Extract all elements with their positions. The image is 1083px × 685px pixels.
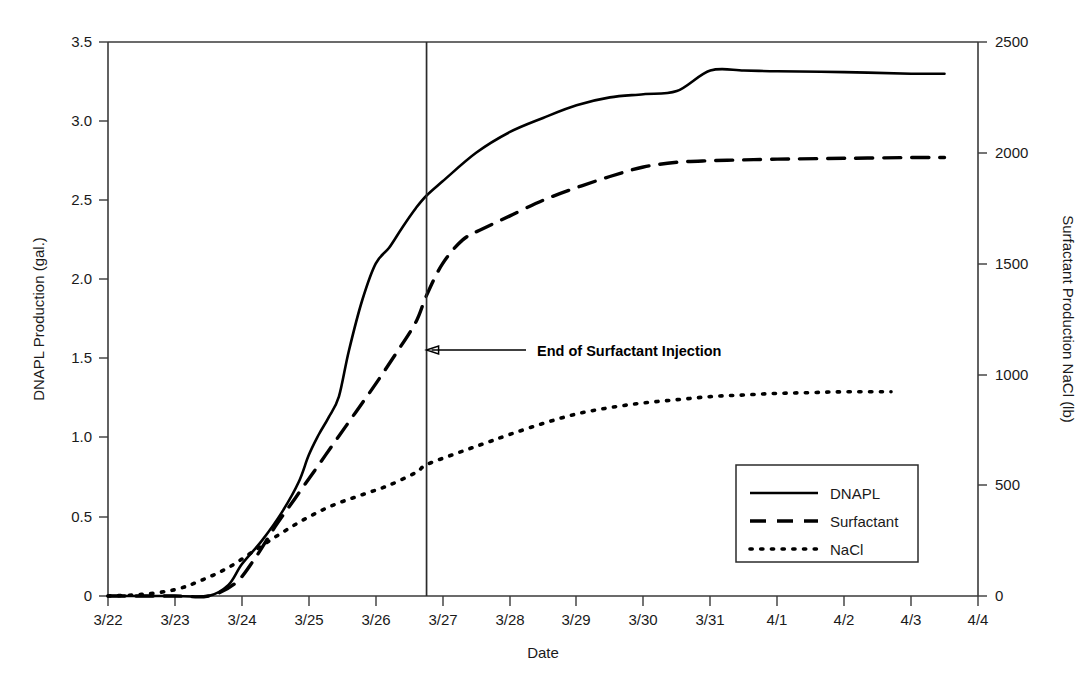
x-axis-labels: 3/22 3/23 3/24 3/25 3/26 3/27 3/28 3/29 …: [93, 611, 988, 628]
y-tick-label: 2.5: [71, 191, 92, 208]
y-axis-right-ticks: [978, 42, 987, 596]
y-tick-label: 0.5: [71, 508, 92, 525]
y-tick-label: 3.0: [71, 112, 92, 129]
x-tick-label: 3/26: [361, 611, 390, 628]
legend-label-nacl: NaCl: [830, 541, 863, 558]
y-tick-label: 1.0: [71, 428, 92, 445]
y2-tick-label: 500: [995, 476, 1020, 493]
x-tick-label: 4/1: [767, 611, 788, 628]
y-axis-right-title: Surfactant Production NaCl (lb): [1060, 215, 1077, 423]
x-tick-label: 3/23: [160, 611, 189, 628]
x-tick-label: 3/30: [628, 611, 657, 628]
annotation-label: End of Surfactant Injection: [537, 343, 721, 359]
legend-label-surfactant: Surfactant: [830, 513, 899, 530]
y-tick-label: 3.5: [71, 33, 92, 50]
y-axis-left-ticks: [99, 42, 108, 596]
y2-tick-label: 0: [995, 587, 1003, 604]
x-tick-label: 3/25: [294, 611, 323, 628]
y-axis-left-labels: 0 0.5 1.0 1.5 2.0 2.5 3.0 3.5: [71, 33, 92, 604]
x-tick-label: 3/28: [495, 611, 524, 628]
x-tick-label: 4/4: [968, 611, 989, 628]
x-tick-label: 3/24: [227, 611, 256, 628]
end-of-injection-annotation: End of Surfactant Injection: [427, 343, 722, 359]
line-chart: 0 0.5 1.0 1.5 2.0 2.5 3.0 3.5 0 500 1000…: [0, 0, 1083, 685]
y-tick-label: 0: [84, 587, 92, 604]
y-axis-right-labels: 0 500 1000 1500 2000 2500: [995, 33, 1028, 604]
x-axis-ticks: [108, 596, 978, 606]
x-tick-label: 3/29: [561, 611, 590, 628]
y-axis-left-title: DNAPL Production (gal.): [30, 237, 47, 401]
y-tick-label: 1.5: [71, 349, 92, 366]
y2-tick-label: 1000: [995, 366, 1028, 383]
y2-tick-label: 2500: [995, 33, 1028, 50]
y2-tick-label: 2000: [995, 144, 1028, 161]
x-tick-label: 4/2: [834, 611, 855, 628]
legend-label-dnapl: DNAPL: [830, 485, 880, 502]
chart-legend: DNAPL Surfactant NaCl: [736, 465, 918, 562]
x-axis-title: Date: [527, 644, 559, 661]
y2-tick-label: 1500: [995, 255, 1028, 272]
chart-figure: 0 0.5 1.0 1.5 2.0 2.5 3.0 3.5 0 500 1000…: [0, 0, 1083, 685]
x-tick-label: 3/31: [695, 611, 724, 628]
x-tick-label: 3/22: [93, 611, 122, 628]
x-tick-label: 4/3: [901, 611, 922, 628]
y-tick-label: 2.0: [71, 270, 92, 287]
x-tick-label: 3/27: [428, 611, 457, 628]
